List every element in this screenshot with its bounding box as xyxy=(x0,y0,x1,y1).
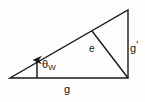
label-g-base-text: g xyxy=(64,83,70,95)
right-triangle-outline xyxy=(10,10,128,78)
label-g-prime: g' xyxy=(130,41,138,54)
label-e-text: e xyxy=(89,43,95,54)
label-g-base: g xyxy=(64,84,70,95)
inner-segment-e xyxy=(92,31,128,78)
geometry-figure: g g' e θW xyxy=(0,0,145,102)
label-e: e xyxy=(89,44,95,54)
prime-mark-icon: ' xyxy=(136,40,138,51)
theta-subscript-w: W xyxy=(48,63,56,72)
triangle-diagram-svg xyxy=(0,0,145,102)
label-theta-w: θW xyxy=(42,59,56,72)
